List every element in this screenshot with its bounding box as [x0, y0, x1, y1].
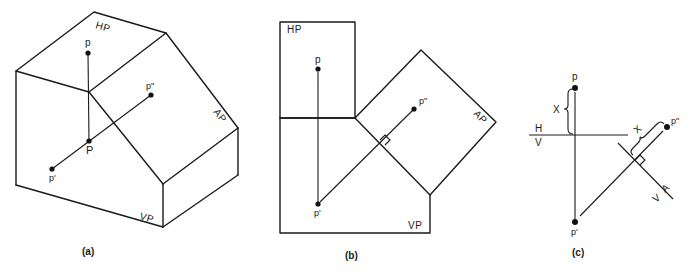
panel-c-point-p-aux	[664, 124, 670, 130]
panel-a-caption: (a)	[82, 246, 94, 257]
panel-c-caption: (c)	[572, 247, 584, 258]
panel-b-right-angle-marker	[380, 135, 390, 145]
panel-c-label-p-front: p'	[571, 227, 578, 237]
panel-b-label-p-front: p'	[314, 208, 321, 218]
panel-c-label-p-aux: p"	[671, 116, 679, 126]
panel-c-label-a: A	[659, 182, 671, 195]
panel-b-label-p-aux: p"	[419, 96, 427, 106]
panel-b-label-vp: VP	[408, 220, 422, 231]
panel-b-label-hp: HP	[287, 24, 302, 35]
panel-c-point-p-top	[572, 85, 578, 91]
panel-c-label-x-vertical: X	[553, 104, 560, 115]
panel-b-point-p-aux	[411, 106, 416, 111]
panel-a-point-P	[86, 138, 91, 143]
panel-a-label-ap: AP	[211, 106, 228, 124]
panel-b-label-p-top: p	[315, 54, 321, 65]
panel-b-projector-inclined	[320, 109, 414, 202]
panel-a-projector-vertical	[88, 53, 89, 141]
panel-a-label-vp: VP	[138, 210, 155, 225]
panel-a-point-p-aux	[148, 92, 153, 97]
panel-b-point-p-front	[315, 201, 320, 206]
panel-c-brace-x-vertical	[564, 89, 573, 134]
panel-a-label-P: P	[86, 144, 93, 156]
panel-b-point-p-top	[315, 66, 320, 71]
panel-c-right-angle-marker	[635, 155, 645, 165]
panel-a: p P p" p' HP AP VP (a)	[16, 12, 238, 257]
panel-a-label-p-aux: p"	[146, 81, 154, 91]
panel-c-label-v2: V	[650, 192, 662, 205]
panel-c-label-x-inclined: X	[631, 123, 643, 136]
panel-b-caption: (b)	[345, 250, 358, 261]
panel-c-point-p-front	[572, 219, 578, 225]
panel-b-ap-plane	[355, 50, 496, 195]
panel-c-projector-inclined	[580, 131, 663, 216]
panel-b: p p' p" HP AP VP (b)	[280, 22, 496, 261]
panel-a-point-p-top	[85, 50, 90, 55]
panel-b-label-ap: AP	[472, 108, 490, 126]
panel-a-box-edges	[16, 12, 238, 227]
panel-c-label-v: V	[535, 137, 542, 148]
panel-a-point-p-front	[49, 166, 54, 171]
orthographic-projection-figure: p P p" p' HP AP VP (a) p p' p" HP AP VP	[0, 0, 695, 275]
panel-a-label-hp: HP	[94, 19, 111, 34]
panel-c: p p' p" H V A V X X (c)	[529, 71, 679, 258]
panel-b-vp-plane	[280, 118, 430, 233]
panel-a-projector-inclined	[52, 95, 151, 169]
panel-a-label-p-front: p'	[49, 173, 56, 183]
panel-c-label-h: H	[535, 123, 542, 134]
panel-a-label-p-top: p	[85, 37, 91, 48]
panel-c-label-p-top: p	[572, 71, 578, 82]
